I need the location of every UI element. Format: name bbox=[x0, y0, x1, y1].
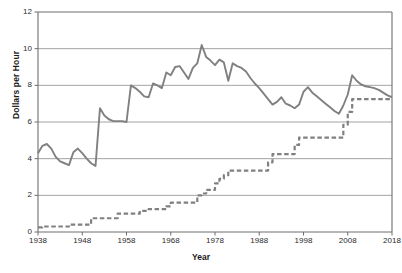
x-tick-label: 1958 bbox=[107, 236, 147, 245]
chart-container: Dollars per Hour Year 193819481958196819… bbox=[0, 0, 402, 273]
tick-marks bbox=[35, 12, 393, 236]
y-tick-label: 8 bbox=[14, 80, 32, 89]
y-tick-label: 4 bbox=[14, 154, 32, 163]
x-tick-label: 2018 bbox=[372, 236, 402, 245]
series-line-0 bbox=[38, 45, 392, 166]
y-tick-label: 0 bbox=[14, 227, 32, 236]
x-tick-label: 1988 bbox=[239, 236, 279, 245]
x-tick-label: 2008 bbox=[328, 236, 368, 245]
x-tick-label: 1948 bbox=[62, 236, 102, 245]
x-tick-label: 1978 bbox=[195, 236, 235, 245]
y-tick-label: 12 bbox=[14, 7, 32, 16]
x-tick-label: 1968 bbox=[151, 236, 191, 245]
y-tick-label: 2 bbox=[14, 190, 32, 199]
x-tick-label: 1938 bbox=[18, 236, 58, 245]
x-tick-label: 1998 bbox=[284, 236, 324, 245]
gridlines bbox=[38, 12, 392, 195]
chart-plot-area bbox=[0, 0, 402, 273]
y-tick-label: 10 bbox=[14, 44, 32, 53]
x-axis-label: Year bbox=[0, 252, 402, 262]
y-tick-label: 6 bbox=[14, 117, 32, 126]
data-series-layer bbox=[38, 45, 392, 227]
